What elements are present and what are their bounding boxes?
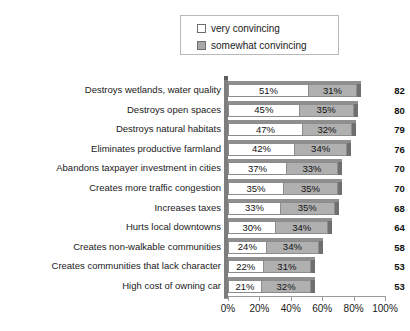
bar-value-label: 34% (292, 223, 311, 233)
bar-value-label: 34% (311, 144, 330, 154)
category-label: Destroys open spaces (127, 104, 221, 116)
bar-segment-very-convincing[interactable]: 22% (228, 260, 263, 273)
category-axis-spine-cap (224, 76, 228, 80)
bar-segment-somewhat-convincing[interactable]: 35% (299, 104, 354, 117)
row-total-value: 82 (389, 85, 410, 97)
chart-row: Abandons taxpayer investment in cities37… (0, 162, 410, 182)
bar-segment-somewhat-convincing[interactable]: 33% (286, 162, 338, 175)
bar-segment-somewhat-convincing[interactable]: 35% (283, 182, 338, 195)
bar-value-label: 30% (243, 223, 262, 233)
chart-row: Eliminates productive farmland42%34%76 (0, 143, 410, 163)
x-tick-mark (322, 296, 323, 301)
bar-value-label: 34% (283, 242, 302, 252)
category-label: Destroys wetlands, water quality (85, 84, 221, 96)
stacked-bar[interactable]: 35%35% (228, 182, 342, 195)
legend-label-somewhat-convincing: somewhat convincing (211, 40, 307, 51)
bar-value-label: 35% (317, 105, 336, 115)
bar-end-cap (311, 260, 315, 273)
row-total-value: 70 (389, 163, 410, 175)
bar-segment-very-convincing[interactable]: 45% (228, 104, 299, 117)
bar-segment-somewhat-convincing[interactable]: 31% (263, 260, 312, 273)
bar-end-cap (338, 162, 342, 175)
stacked-bar[interactable]: 45%35% (228, 104, 358, 117)
stacked-bar[interactable]: 22%31% (228, 260, 315, 273)
bar-segment-very-convincing[interactable]: 35% (228, 182, 283, 195)
chart-legend: very convincing somewhat convincing (180, 15, 339, 55)
chart-row: Increases taxes33%35%68 (0, 202, 410, 222)
row-total-value: 64 (389, 222, 410, 234)
category-label: Hurts local downtowns (126, 221, 221, 233)
bar-segment-somewhat-convincing[interactable]: 34% (294, 143, 347, 156)
category-label: Creates non-walkable communities (73, 241, 221, 253)
x-tick-mark (291, 296, 292, 301)
bar-value-label: 42% (252, 144, 271, 154)
bar-value-label: 31% (323, 86, 342, 96)
bar-end-cap (335, 202, 339, 215)
chart-row: Hurts local downtowns30%34%64 (0, 221, 410, 241)
stacked-bar[interactable]: 21%32% (228, 280, 315, 293)
white-square-icon (197, 24, 206, 33)
bar-end-cap (328, 221, 332, 234)
category-label: Eliminates productive farmland (91, 143, 221, 155)
bar-segment-very-convincing[interactable]: 42% (228, 143, 294, 156)
bar-segment-very-convincing[interactable]: 47% (228, 123, 302, 136)
stacked-bar[interactable]: 24%34% (228, 241, 323, 254)
bar-segment-very-convincing[interactable]: 37% (228, 162, 286, 175)
bar-end-cap (319, 241, 323, 254)
bar-value-label: 45% (254, 105, 273, 115)
stacked-bar[interactable]: 42%34% (228, 143, 351, 156)
gray-square-icon (197, 41, 206, 50)
bar-value-label: 33% (245, 203, 264, 213)
bar-segment-somewhat-convincing[interactable]: 31% (308, 84, 357, 97)
row-total-value: 76 (389, 144, 410, 156)
bar-value-label: 35% (298, 203, 317, 213)
bar-segment-very-convincing[interactable]: 24% (228, 241, 266, 254)
bar-segment-very-convincing[interactable]: 33% (228, 202, 280, 215)
row-total-value: 70 (389, 183, 410, 195)
bar-end-cap (311, 280, 315, 293)
bar-segment-somewhat-convincing[interactable]: 34% (275, 221, 328, 234)
category-label: Destroys natural habitats (116, 123, 221, 135)
row-total-value: 79 (389, 124, 410, 136)
bar-segment-somewhat-convincing[interactable]: 35% (280, 202, 335, 215)
bar-value-label: 47% (256, 125, 275, 135)
x-tick-label: 100% (365, 303, 405, 315)
chart-row: Creates non-walkable communities24%34%58 (0, 241, 410, 261)
bar-end-cap (352, 123, 356, 136)
bar-end-cap (354, 104, 358, 117)
bar-value-label: 21% (235, 282, 254, 292)
stacked-bar[interactable]: 33%35% (228, 202, 339, 215)
bar-segment-very-convincing[interactable]: 30% (228, 221, 275, 234)
row-total-value: 58 (389, 242, 410, 254)
row-total-value: 53 (389, 281, 410, 293)
bar-value-label: 22% (236, 262, 255, 272)
bar-end-cap (338, 182, 342, 195)
stacked-bar[interactable]: 51%31% (228, 84, 361, 97)
bar-segment-somewhat-convincing[interactable]: 32% (261, 280, 311, 293)
stacked-bar[interactable]: 47%32% (228, 123, 356, 136)
x-tick-mark (259, 296, 260, 301)
category-label: Creates more traffic congestion (89, 182, 221, 194)
bar-end-cap (347, 143, 351, 156)
bar-value-label: 35% (246, 184, 265, 194)
bar-segment-very-convincing[interactable]: 51% (228, 84, 308, 97)
legend-item-very-convincing: very convincing (197, 20, 338, 36)
stacked-bar-chart: very convincing somewhat convincing Dest… (0, 0, 410, 331)
bar-value-label: 35% (301, 184, 320, 194)
category-label: Abandons taxpayer investment in cities (56, 162, 221, 174)
x-tick-mark (385, 296, 386, 301)
stacked-bar[interactable]: 37%33% (228, 162, 342, 175)
legend-item-somewhat-convincing: somewhat convincing (197, 37, 338, 53)
category-label: Increases taxes (154, 202, 221, 214)
row-total-value: 53 (389, 261, 410, 273)
stacked-bar[interactable]: 30%34% (228, 221, 332, 234)
bar-value-label: 24% (238, 242, 257, 252)
bar-value-label: 37% (248, 164, 267, 174)
category-label: High cost of owning car (122, 280, 221, 292)
bar-segment-somewhat-convincing[interactable]: 32% (302, 123, 352, 136)
chart-row: Creates communities that lack character2… (0, 260, 410, 280)
bar-end-cap (357, 84, 361, 97)
bar-segment-very-convincing[interactable]: 21% (228, 280, 261, 293)
row-total-value: 68 (389, 203, 410, 215)
bar-segment-somewhat-convincing[interactable]: 34% (266, 241, 319, 254)
